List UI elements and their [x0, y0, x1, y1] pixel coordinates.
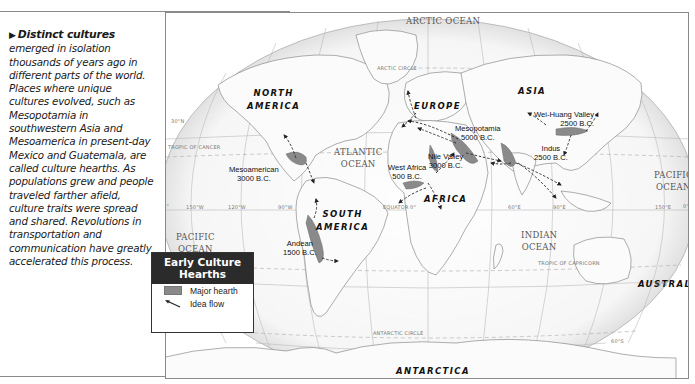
- hearth-date: 3000 B.C.: [428, 161, 463, 170]
- grid-label-120w: 120°W: [228, 204, 246, 210]
- hearth-date: 2500 B.C.: [534, 119, 594, 128]
- grid-label-0-right: 0°: [683, 203, 689, 209]
- label-africa: AFRICA: [424, 193, 467, 206]
- caption-body: emerged in isolation thousands of years …: [9, 42, 153, 267]
- hearth-name: Wei-Huang Valley: [534, 110, 594, 119]
- hearth-date: 3000 B.C.: [229, 174, 279, 183]
- grid-label-tropic-capricorn: TROPIC OF CAPRICORN: [538, 260, 600, 266]
- hearth-label-mesoamerican: Mesoamerican 3000 B.C.: [229, 165, 279, 183]
- label-indian-line1: INDIAN: [521, 229, 557, 241]
- grid-label-60s: 60°S: [611, 338, 624, 344]
- hearth-label-wei-huang: Wei-Huang Valley 2500 B.C.: [534, 110, 594, 128]
- grid-label-90w: 90°W: [278, 204, 293, 210]
- hearth-date: 500 B.C.: [388, 172, 426, 181]
- label-europe: EUROPE: [414, 100, 461, 113]
- legend-label: Idea flow: [190, 299, 224, 309]
- grid-label-equator: EQUATOR: [383, 204, 409, 210]
- grid-label-30n: 30°N: [171, 118, 184, 124]
- grid-label-antarctic-circle: ANTARCTIC CIRCLE: [373, 330, 423, 336]
- grid-label-150e: 150°E: [655, 204, 671, 210]
- label-atlantic-ocean: ATLANTIC OCEAN: [334, 146, 383, 170]
- hearth-label-andean: Andean 1500 B.C.: [283, 239, 317, 257]
- legend-title: Early Culture Hearths: [152, 253, 253, 284]
- label-south-america-line2: AMERICA: [316, 221, 369, 234]
- label-indian-line2: OCEAN: [521, 241, 557, 253]
- label-pacific-ocean-east: PACIFIC OCEAN: [654, 169, 689, 193]
- label-south-america: SOUTH AMERICA: [316, 208, 369, 234]
- label-atlantic-line1: ATLANTIC: [334, 146, 383, 158]
- grid-label-arctic-circle: ARCTIC CIRCLE: [377, 65, 417, 71]
- grid-label-150w: 150°W: [186, 204, 204, 210]
- hearth-label-nile-valley: Nile Valley 3000 B.C.: [428, 152, 463, 170]
- hearth-swatch-icon: [164, 286, 182, 295]
- caption-arrow-icon: ▶: [9, 30, 16, 40]
- hearth-date: 5000 B.C.: [455, 133, 501, 142]
- hearth-name: Andean: [283, 239, 317, 248]
- label-asia: ASIA: [518, 85, 546, 98]
- label-north-america-line2: AMERICA: [247, 100, 300, 113]
- grid-label-tropic-cancer: TROPIC OF CANCER: [168, 144, 220, 150]
- legend-item-major-hearth: Major hearth: [164, 284, 253, 297]
- grid-label-60e: 60°E: [508, 204, 521, 210]
- label-antarctica: ANTARCTICA: [396, 365, 470, 378]
- hearth-label-mesopotamia: Mesopotamia 5000 B.C.: [455, 124, 501, 142]
- grid-label-90e: 90°E: [553, 204, 566, 210]
- label-arctic-ocean: ARCTIC OCEAN: [406, 15, 480, 27]
- hearth-name: Indus: [534, 144, 568, 153]
- legend-title-line2: Hearths: [152, 268, 253, 280]
- label-south-america-line1: SOUTH: [316, 208, 369, 221]
- hearth-label-indus: Indus 2500 B.C.: [534, 144, 568, 162]
- grid-label-0: 0°: [410, 204, 416, 210]
- label-atlantic-line2: OCEAN: [334, 158, 383, 170]
- legend-title-line1: Early Culture: [152, 256, 253, 268]
- hearth-label-west-africa: West Africa 500 B.C.: [388, 163, 426, 181]
- hearth-name: West Africa: [388, 163, 426, 172]
- grid-label-0-left: 0°: [165, 203, 169, 209]
- label-pacific-east-line2: OCEAN: [654, 181, 689, 193]
- grid-label-30s: 30°S: [654, 281, 667, 287]
- caption-lead: Distinct cultures: [18, 28, 115, 41]
- hearth-date: 1500 B.C.: [283, 248, 317, 257]
- hearth-date: 2500 B.C.: [534, 153, 568, 162]
- caption-text: ▶Distinct cultures emerged in isolation …: [9, 28, 154, 268]
- label-pacific-west-line1: PACIFIC: [176, 231, 215, 243]
- hearth-name: Mesoamerican: [229, 165, 279, 174]
- idea-flow-arrow-icon: [164, 299, 182, 308]
- label-north-america-line1: NORTH: [247, 87, 300, 100]
- hearth-name: Mesopotamia: [455, 124, 501, 133]
- legend-label: Major hearth: [190, 286, 238, 296]
- label-pacific-east-line1: PACIFIC: [654, 169, 689, 181]
- map-legend: Early Culture Hearths Major hearth Idea …: [151, 252, 254, 333]
- label-indian-ocean: INDIAN OCEAN: [521, 229, 557, 253]
- legend-item-idea-flow: Idea flow: [164, 297, 253, 310]
- label-north-america: NORTH AMERICA: [247, 87, 300, 113]
- hearth-name: Nile Valley: [428, 152, 463, 161]
